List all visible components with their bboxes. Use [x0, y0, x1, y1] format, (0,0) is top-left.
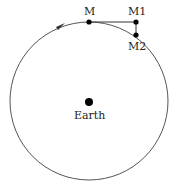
orbit-diagram: M M1 M2 Earth: [0, 0, 176, 190]
label-m1: M1: [128, 6, 146, 17]
label-m: M: [84, 6, 95, 17]
point-m1: [133, 19, 138, 24]
point-m: [86, 19, 91, 24]
orbit-svg: [0, 0, 176, 190]
label-m2: M2: [128, 41, 146, 52]
earth-point: [85, 98, 93, 106]
label-earth: Earth: [74, 110, 105, 121]
point-m2: [133, 32, 138, 37]
